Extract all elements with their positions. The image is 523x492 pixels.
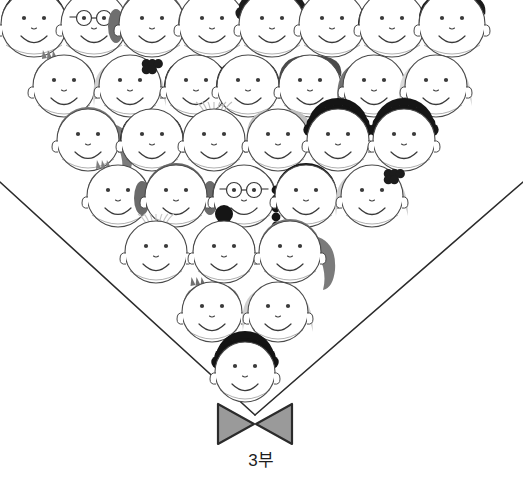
eye-right [184,188,188,192]
eye-right [412,132,416,136]
ear-right [484,25,490,36]
eye-right [220,304,224,308]
eye-left [233,364,237,368]
ear-right [320,253,326,264]
ear-right [402,197,408,208]
ear-left [336,197,342,208]
eye-right [318,78,322,82]
eye-right [204,78,208,82]
eye-left [212,244,216,248]
ear-left [28,87,34,98]
eye-left [360,188,364,192]
braid-bead [272,213,281,222]
eye-right [400,16,404,20]
eye-right [280,16,284,20]
ear-left [243,313,249,324]
bow-puff [390,175,399,184]
eye-right [314,188,318,192]
ear-left [94,87,100,98]
eye-left [440,16,444,20]
ear-left [270,197,276,208]
choir-crowd-artwork [0,0,523,492]
eye-left [260,16,264,20]
eye-left [424,78,428,82]
eye-right [340,16,344,20]
eye-left [22,16,26,20]
eye-right [126,188,130,192]
eye-left [326,132,330,136]
eye-right [72,78,76,82]
ear-left [120,253,126,264]
eye-left [294,188,298,192]
ear-left [274,87,280,98]
eye-left [184,78,188,82]
ear-left [188,253,194,264]
ear-left [354,25,360,36]
eye-left [236,78,240,82]
eye-left [82,16,86,20]
ear-left [160,87,166,98]
eye-left [106,188,110,192]
eye-right [298,244,302,248]
ear-left [414,25,420,36]
ear-left [338,87,344,98]
eye-right [160,132,164,136]
ear-left [82,197,88,208]
eye-right [380,188,384,192]
eye-right [286,132,290,136]
eye-left [320,16,324,20]
eye-left [118,78,122,82]
ear-left [254,253,260,264]
eye-left [232,188,236,192]
eye-left [298,78,302,82]
eye-right [222,132,226,136]
ear-left [116,141,122,152]
eye-left [140,132,144,136]
eye-left [380,16,384,20]
ear-left [114,25,120,36]
eye-right [138,78,142,82]
eye-left [200,16,204,20]
eye-right [286,304,290,308]
ear-left [52,141,58,152]
ear-left [140,197,146,208]
eye-left [52,78,56,82]
ear-left [400,87,406,98]
eye-right [42,16,46,20]
ear-left [174,25,180,36]
ear-left [234,25,240,36]
ear-left [302,141,308,152]
eye-left [144,244,148,248]
ear-left [0,25,2,36]
eye-right [444,78,448,82]
eye-right [460,16,464,20]
eye-right [252,188,256,192]
eye-right [382,78,386,82]
eye-right [253,364,257,368]
ear-left [242,141,248,152]
eye-right [164,244,168,248]
illustration-canvas: 3부 [0,0,523,492]
eye-left [392,132,396,136]
eye-left [202,132,206,136]
ear-right [307,313,313,324]
ear-left [208,197,214,208]
eye-right [160,16,164,20]
ear-left [56,25,62,36]
ear-left [368,141,374,152]
ear-left [177,313,183,324]
ear-right [466,87,472,98]
bow-puff [148,65,157,74]
eye-left [164,188,168,192]
eye-right [102,16,106,20]
eye-left [266,132,270,136]
eye-right [232,244,236,248]
ear-left [178,141,184,152]
eye-left [278,244,282,248]
caption-label: 3부 [0,452,523,469]
ear-left [294,25,300,36]
eye-right [346,132,350,136]
eye-left [200,304,204,308]
ear-left [212,87,218,98]
eye-left [266,304,270,308]
